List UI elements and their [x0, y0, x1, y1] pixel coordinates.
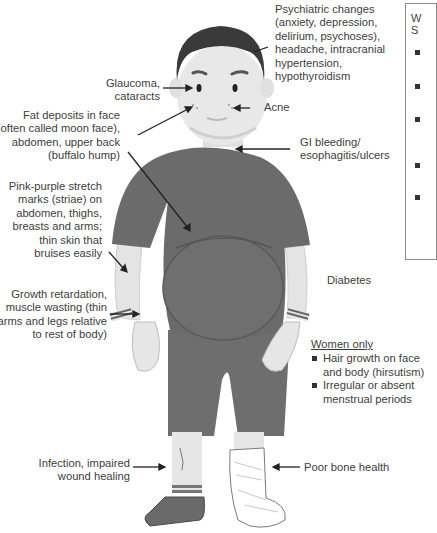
- shoe: [145, 497, 205, 526]
- label-acne: Acne: [264, 101, 290, 114]
- side-box-bullet: [415, 195, 420, 200]
- leg-cast: [230, 448, 286, 527]
- women-only-section: Women only Hair growth on face and body …: [311, 338, 431, 406]
- side-box-bullet: [415, 84, 420, 89]
- label-bone: Poor bone health: [304, 461, 389, 474]
- side-box-bullet: [415, 163, 420, 168]
- women-only-title: Women only: [311, 338, 431, 351]
- label-striae: Pink-purple stretch marks (striae) on ab…: [9, 180, 102, 260]
- label-psychiatric: Psychiatric changes (anxiety, depression…: [275, 3, 385, 83]
- side-info-box: W S: [405, 3, 437, 260]
- label-diabetes: Diabetes: [327, 274, 371, 287]
- side-box-bullet: [415, 50, 420, 55]
- left-hand: [132, 322, 159, 371]
- label-infection: Infection, impaired wound healing: [39, 457, 130, 484]
- belly: [163, 236, 283, 340]
- women-only-item: Irregular or absent menstrual periods: [311, 379, 431, 406]
- women-only-list: Hair growth on face and body (hirsutism)…: [311, 352, 431, 406]
- women-only-item: Hair growth on face and body (hirsutism): [311, 352, 431, 379]
- label-fat-deposits: Fat deposits in face (often called moon …: [0, 109, 120, 163]
- label-growth: Growth retardation, muscle wasting (thin…: [0, 288, 107, 342]
- label-glaucoma: Glaucoma, cataracts: [106, 77, 160, 104]
- side-box-bullet: [415, 117, 420, 122]
- left-leg: [172, 432, 202, 492]
- right-arm: [285, 240, 307, 318]
- label-gi: GI bleeding/ esophagitis/ulcers: [300, 136, 390, 163]
- side-box-heading: W S: [411, 12, 421, 36]
